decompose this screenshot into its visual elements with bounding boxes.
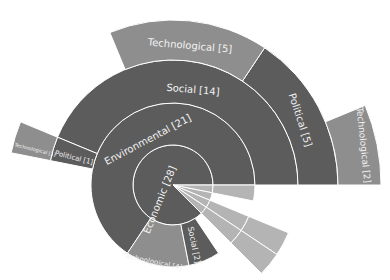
sunburst-segment[interactable]: Technological [1]: [212, 185, 255, 201]
sunburst-chart: Economic [28]Environmental [21]Technolog…: [0, 0, 390, 280]
sunburst-svg: Economic [28]Environmental [21]Technolog…: [0, 0, 390, 280]
